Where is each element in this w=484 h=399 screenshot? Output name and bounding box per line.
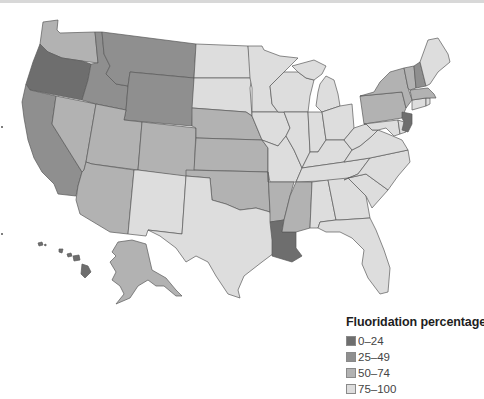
legend: Fluoridation percentage 0–24 25–49 50–74… [346, 315, 484, 397]
edge-mark [1, 233, 3, 235]
state-MA[interactable] [410, 88, 436, 100]
legend-label: 0–24 [358, 335, 384, 347]
legend-item-50-74: 50–74 [346, 365, 484, 381]
legend-item-25-49: 25–49 [346, 349, 484, 365]
state-ND[interactable] [194, 44, 252, 78]
legend-label: 50–74 [358, 367, 390, 379]
state-HI[interactable] [38, 242, 91, 278]
legend-label: 25–49 [358, 351, 390, 363]
legend-swatch-50-74 [346, 368, 356, 378]
state-FL[interactable] [318, 218, 390, 294]
legend-item-75-100: 75–100 [346, 381, 484, 397]
state-PA[interactable] [360, 92, 406, 124]
legend-item-0-24: 0–24 [346, 333, 484, 349]
state-RI[interactable] [426, 98, 430, 106]
state-WY[interactable] [124, 72, 194, 126]
state-AZ[interactable] [76, 162, 134, 234]
legend-label: 75–100 [358, 383, 396, 395]
edge-mark [1, 126, 3, 128]
legend-swatch-0-24 [346, 336, 356, 346]
state-AK[interactable] [110, 240, 182, 304]
legend-swatch-75-100 [346, 384, 356, 394]
state-CO[interactable] [138, 122, 196, 178]
legend-swatch-25-49 [346, 352, 356, 362]
legend-title: Fluoridation percentage [346, 315, 484, 329]
state-KS[interactable] [194, 138, 268, 172]
state-ME[interactable] [420, 38, 450, 86]
state-NM[interactable] [128, 170, 186, 236]
